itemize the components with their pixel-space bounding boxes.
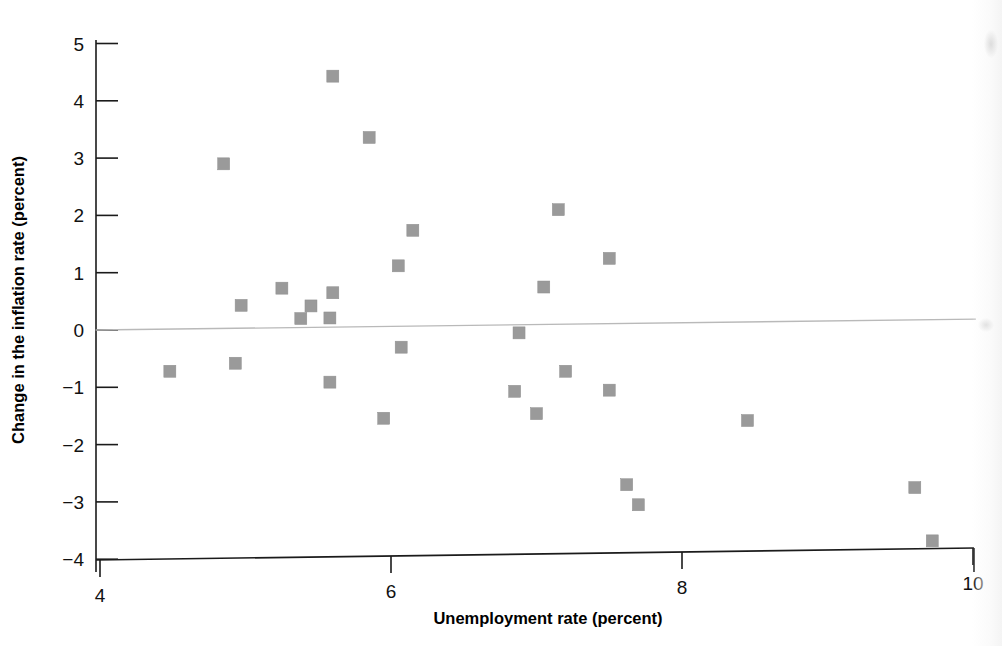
y-axis-tick-label: −2: [62, 435, 84, 456]
y-axis-tick-label: 1: [73, 263, 84, 284]
data-point: [229, 357, 241, 369]
data-point: [560, 365, 572, 377]
data-point: [392, 260, 404, 272]
y-axis-tick-label: 4: [73, 91, 84, 112]
data-point: [324, 376, 336, 388]
data-point: [513, 327, 525, 339]
data-point: [926, 535, 938, 547]
data-point: [407, 224, 419, 236]
chart-figure: 543210−1−2−3−4 46810 Unemployment rate (…: [0, 0, 1002, 646]
data-point: [552, 204, 564, 216]
y-axis-title: Change in the inflation rate (percent): [9, 156, 27, 444]
data-point: [305, 300, 317, 312]
data-point: [295, 313, 307, 325]
data-point: [276, 282, 288, 294]
data-point: [324, 312, 336, 324]
data-point: [603, 252, 615, 264]
data-point: [363, 131, 375, 143]
y-axis-tick-label: −4: [62, 549, 84, 570]
data-point: [327, 70, 339, 82]
y-axis-tick-label: 3: [73, 148, 84, 169]
data-point: [235, 299, 247, 311]
y-axis-tick-label: 0: [73, 320, 84, 341]
y-axis-tick-label: −3: [62, 492, 84, 513]
x-axis-tick-label: 4: [95, 585, 106, 606]
x-axis-tick-label: 8: [677, 577, 688, 598]
scatter-plot-svg: 543210−1−2−3−4 46810 Unemployment rate (…: [0, 0, 1002, 646]
data-point: [395, 341, 407, 353]
data-point: [621, 479, 633, 491]
x-axis-tick-label: 10: [962, 573, 983, 594]
y-axis-tick-label: 5: [73, 34, 84, 55]
data-point: [909, 482, 921, 494]
data-point: [741, 415, 753, 427]
x-axis-tick-label: 6: [386, 581, 397, 602]
data-point: [531, 408, 543, 420]
x-axis-title: Unemployment rate (percent): [433, 609, 662, 627]
data-point: [509, 385, 521, 397]
data-point: [378, 412, 390, 424]
data-point: [632, 499, 644, 511]
data-point: [164, 365, 176, 377]
y-axis-tick-label: 2: [73, 205, 84, 226]
data-point: [603, 384, 615, 396]
data-point: [538, 281, 550, 293]
data-point: [218, 158, 230, 170]
data-point: [327, 287, 339, 299]
y-axis-tick-label: −1: [62, 377, 84, 398]
